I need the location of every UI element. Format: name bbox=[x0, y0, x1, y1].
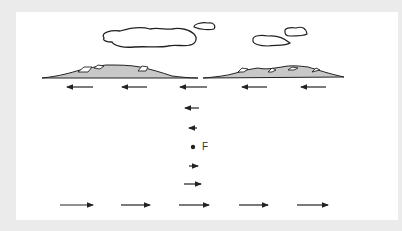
cloud-small-2 bbox=[253, 35, 290, 46]
cloud-large bbox=[103, 28, 196, 48]
cloud-small-1 bbox=[194, 23, 215, 30]
landform-right bbox=[203, 66, 344, 78]
diagram-canvas bbox=[0, 0, 402, 231]
cloud-small-3 bbox=[285, 27, 307, 36]
focal-point-label: F bbox=[202, 141, 208, 152]
focal-point-icon bbox=[191, 145, 195, 149]
landform-left bbox=[42, 65, 198, 78]
